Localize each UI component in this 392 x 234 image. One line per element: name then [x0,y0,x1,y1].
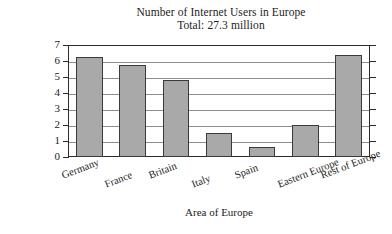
y-axis-tick-label: 2 [44,118,60,130]
bar [335,55,362,157]
y-axis-tick-label: 5 [44,70,60,82]
y-axis-tick-right [370,45,376,46]
chart-subtitle: Total: 27.3 million [76,19,366,32]
bar-chart-figure: Number of Internet Users in Europe Total… [0,0,392,234]
y-axis-tick-label: 4 [44,86,60,98]
y-axis-tick-right [370,77,376,78]
y-axis-tick-right [370,141,376,142]
chart-title: Number of Internet Users in Europe [76,6,366,19]
y-axis-tick-right [370,93,376,94]
y-axis-tick-right [370,125,376,126]
y-axis-tick-label: 0 [44,150,60,162]
bar [292,125,319,157]
y-axis-tick-label: 1 [44,134,60,146]
y-axis-tick-left [63,157,69,158]
y-axis-tick-label: 6 [44,54,60,66]
x-axis-tick-label: France [103,169,134,190]
bar [119,65,146,157]
x-axis-tick-label: Germany [60,156,100,180]
y-axis-tick-label: 7 [44,38,60,50]
y-axis-tick-right [370,109,376,110]
x-axis-title: Area of Europe [68,206,370,218]
x-axis-tick-label: Italy [190,172,212,189]
bars-layer [68,45,370,157]
x-axis-tick-label: Britain [147,160,178,181]
x-axis-tick-label: Spain [233,162,259,181]
y-axis-tick-label: 3 [44,102,60,114]
bar [76,57,103,157]
chart-title-block: Number of Internet Users in Europe Total… [76,6,366,32]
bar [163,80,190,157]
bar [249,147,276,157]
bar [206,133,233,157]
y-axis-tick-right [370,61,376,62]
